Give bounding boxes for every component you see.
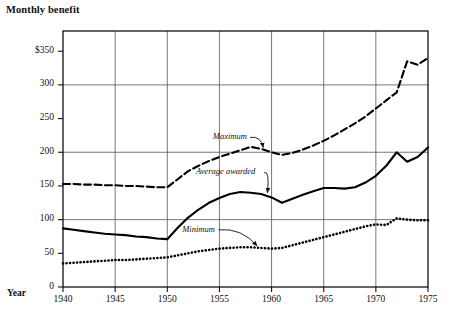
y-tick-label: 200 [0,146,54,156]
x-tick-label: 1950 [145,294,189,304]
y-axis-ticks [58,51,63,287]
annotation-arrow [250,137,263,147]
plot-border [63,31,428,287]
x-tick-label: 1975 [406,294,450,304]
grid-layer [63,31,428,287]
x-tick-label: 1945 [93,294,137,304]
chart-title: Monthly benefit [6,4,80,15]
y-tick-label: 100 [0,213,54,223]
annotation-label: Average awarded [196,166,255,176]
chart-figure: Monthly benefit Year 050100150200250300$… [0,0,453,319]
y-tick-label: 250 [0,112,54,122]
y-tick-label: $350 [0,45,54,55]
data-series-layer [63,58,428,263]
y-tick-label: 0 [0,281,54,291]
axis-frame [63,31,428,287]
vertical-gridlines [115,31,376,287]
x-tick-label: 1940 [41,294,85,304]
y-tick-label: 300 [0,78,54,88]
x-tick-label: 1965 [302,294,346,304]
series-line-minimum [63,218,428,263]
x-tick-label: 1955 [197,294,241,304]
annotation-label: Maximum [213,131,247,141]
x-axis-ticks [63,287,428,292]
y-tick-label: 50 [0,247,54,257]
line-chart-plot [0,0,453,319]
x-tick-label: 1970 [354,294,398,304]
x-tick-label: 1960 [250,294,294,304]
annotation-arrow [219,230,257,246]
horizontal-gridlines [63,85,428,220]
annotation-label: Minimum [182,224,215,234]
annotation-arrow [264,172,268,192]
y-tick-label: 150 [0,179,54,189]
